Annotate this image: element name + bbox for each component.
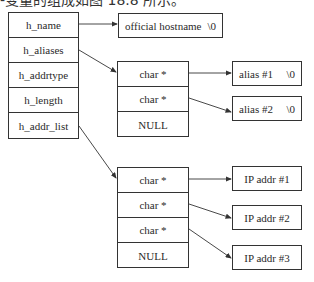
arrow-h-aliases — [79, 50, 116, 72]
arrow-addr-3 — [189, 229, 231, 258]
arrow-addr-2 — [189, 204, 231, 218]
arrow-alias-2 — [189, 98, 231, 112]
pointer-arrows — [0, 0, 314, 282]
arrow-h-addr-list — [79, 126, 116, 178]
